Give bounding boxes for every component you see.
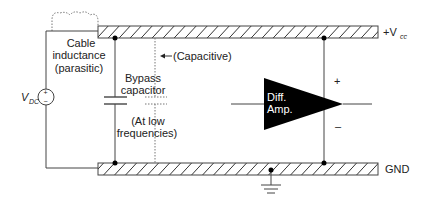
- bypass-capacitor-icon: [104, 38, 127, 163]
- amp-label-2: Amp.: [267, 103, 293, 115]
- vcc-label: +V: [383, 26, 397, 38]
- bypass-label-1: Bypass: [125, 72, 162, 84]
- vdc-plus-sign: +: [44, 89, 48, 96]
- junction-dot: [322, 36, 327, 41]
- low-frequency-label-1: (At low: [131, 115, 165, 127]
- cable-inductance-label-3: (parasitic): [55, 62, 103, 74]
- amp-minus-sign: –: [335, 120, 342, 132]
- junction-dot: [113, 36, 118, 41]
- dc-source-icon: + −: [38, 89, 54, 105]
- capacitive-label: (Capacitive): [173, 50, 232, 62]
- gnd-label: GND: [385, 163, 410, 175]
- cable-inductance-label-2: inductance: [52, 49, 105, 61]
- vcc-rail: [98, 26, 378, 38]
- circuit-diagram: + − V DC Cable inductance (parasitic) (C…: [0, 0, 427, 207]
- junction-dot: [269, 168, 274, 173]
- low-frequency-label-2: frequencies): [117, 127, 178, 139]
- diff-amp: Diff. Amp.: [231, 38, 372, 163]
- junction-dot: [322, 161, 327, 166]
- junction-dot: [113, 161, 118, 166]
- vdc-subscript: DC: [29, 98, 40, 105]
- vdc-minus-sign: −: [44, 98, 48, 105]
- amp-label-1: Diff.: [267, 91, 286, 103]
- arrow-left-icon: [160, 54, 172, 59]
- amp-plus-sign: +: [334, 75, 340, 87]
- bypass-label-2: capacitor: [121, 84, 166, 96]
- gnd-rail: [98, 163, 378, 175]
- cable-inductance-label-1: Cable: [67, 37, 96, 49]
- cable-inductor-icon: [52, 12, 98, 31]
- vcc-subscript: cc: [400, 33, 408, 40]
